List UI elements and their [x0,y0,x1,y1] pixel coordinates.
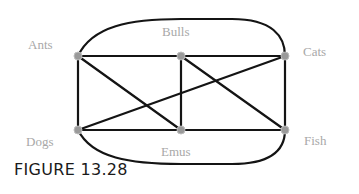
edge-bulls-fish [181,56,285,130]
label-cats: Cats [303,44,326,59]
figure-caption: FIGURE 13.28 [14,160,128,179]
node-fish [281,126,289,134]
node-ants [74,52,82,60]
node-cats [281,52,289,60]
node-emus [177,126,185,134]
label-dogs: Dogs [26,134,53,149]
node-bulls [177,52,185,60]
node-dogs [74,126,82,134]
label-ants: Ants [28,37,53,52]
edge-ants-emus [78,56,181,130]
label-emus: Emus [161,144,191,159]
label-bulls: Bulls [162,24,189,39]
label-fish: Fish [304,133,327,148]
